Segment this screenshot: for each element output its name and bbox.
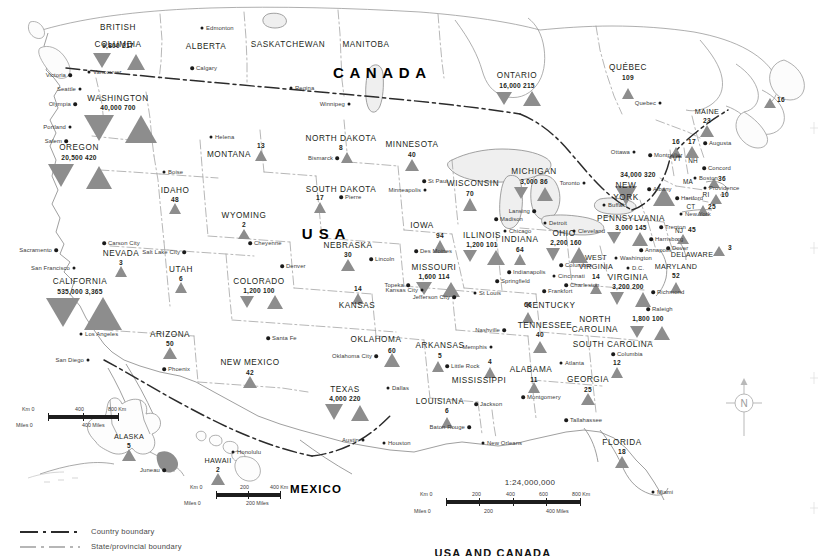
scale-alaska-miles-tick-400: 400 Miles: [82, 422, 105, 428]
map-legend: Country boundary State/provincial bounda…: [18, 524, 182, 554]
scale-main-km-tick-400: 400: [506, 491, 515, 497]
scale-main-miles-tick-400: 400 Miles: [546, 508, 569, 514]
scale-main-ratio: 1:24,000,000: [470, 478, 590, 487]
country-boundary-line-icon: [18, 528, 80, 536]
scale-main-km-tick-200: 200: [472, 491, 481, 497]
scale-alaska-km-tick-400: 400: [75, 406, 84, 412]
country-label-usa: U S A: [302, 226, 346, 241]
scale-hawaii-km-tick-200: 200: [240, 484, 249, 490]
scale-main-miles-tick-200: 200: [484, 508, 493, 514]
legend-label-country-boundary: Country boundary: [91, 527, 155, 536]
legend-item-country-boundary: Country boundary: [18, 524, 182, 539]
scale-main-km-prefix: Km 0: [420, 491, 432, 497]
scale-main-miles-prefix: Miles 0: [414, 508, 431, 514]
legend-label-state-boundary: State/provincial boundary: [91, 542, 182, 551]
scale-bar-hawaii-bar: [216, 493, 280, 497]
scale-hawaii-miles-prefix: Miles 0: [184, 500, 201, 506]
scale-bar-alaska: Km 0 400 800 Km Miles 0 400 Miles: [36, 415, 130, 419]
map-canvas: VictoriaVancouverSeattleOlympiaPortlandS…: [0, 0, 823, 556]
map-bottom-title: USA AND CANADA: [435, 547, 552, 556]
country-label-canada: C A N A D A: [333, 65, 427, 80]
legend-item-state-boundary: State/provincial boundary: [18, 539, 182, 554]
scale-main-km-tick-600: 600: [539, 491, 548, 497]
scale-hawaii-km-prefix: Km 0: [190, 484, 202, 490]
scale-bar-main: 1:24,000,000 Km 0 200 400 600 800 Km Mil…: [432, 492, 612, 504]
scale-main-km-tick-800: 800 Km: [572, 491, 590, 497]
compass-north-label: N: [740, 398, 747, 409]
scale-alaska-km-prefix: Km 0: [22, 406, 34, 412]
scale-bar-hawaii: Km 0 200 400 Km Miles 0 200 Miles: [204, 493, 298, 497]
scale-bar-main-bar: [446, 500, 580, 504]
scale-alaska-km-tick-800: 800 Km: [108, 406, 126, 412]
compass-rose: N: [722, 376, 766, 440]
scale-hawaii-km-tick-400: 400 Km: [270, 484, 288, 490]
country-label-layer: C A N A D A U S A MEXICO: [0, 0, 823, 556]
scale-hawaii-miles-tick-200: 200 Miles: [246, 500, 269, 506]
scale-bar-alaska-bar: [48, 415, 118, 419]
scale-alaska-miles-prefix: Miles 0: [16, 422, 33, 428]
state-boundary-line-icon: [18, 543, 80, 551]
